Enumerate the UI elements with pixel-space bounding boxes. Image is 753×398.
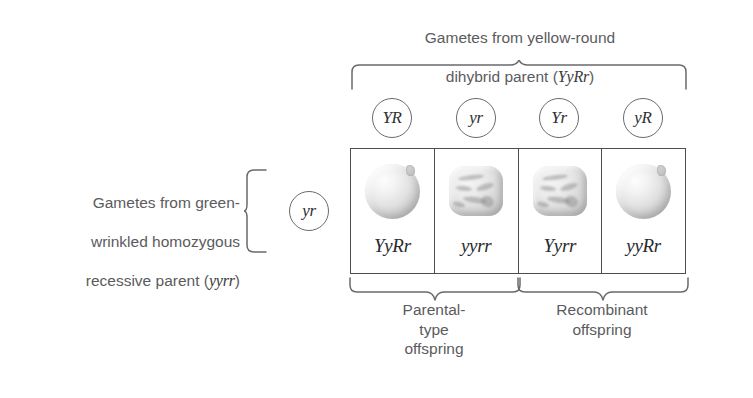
gamete-circle-yR: yR <box>623 98 663 138</box>
recombinant-offspring-caption: Recombinant offspring <box>518 300 686 339</box>
left-parent-label-line1: Gametes from green- <box>93 194 240 211</box>
offspring-cell-2: yyrr <box>435 149 519 273</box>
gamete-circle-Yr: Yr <box>539 98 579 138</box>
left-parent-genotype: yyrr <box>209 272 235 289</box>
round-pea-icon <box>365 164 420 219</box>
offspring-cell-4: yyRr <box>602 149 685 273</box>
left-parent-label-line2: wrinkled homozygous <box>91 233 240 250</box>
offspring-cell-3: Yyrr <box>519 149 603 273</box>
top-parent-label-line1: Gametes from yellow-round <box>425 29 615 46</box>
gamete-circle-yr: yr <box>456 98 496 138</box>
wrinkled-pea-icon <box>533 166 587 216</box>
gamete-circle-YR: YR <box>372 98 412 138</box>
pea-image-wrapper <box>519 149 602 233</box>
gamete-label: YR <box>382 109 401 126</box>
wrinkled-pea-icon <box>449 166 503 216</box>
offspring-genotype: Yyrr <box>544 235 577 257</box>
gamete-label: yr <box>469 109 483 126</box>
gamete-label: yR <box>634 109 651 126</box>
pea-image-wrapper <box>351 149 434 233</box>
offspring-grid: YyRr yyrr Yyrr yyR <box>350 148 686 274</box>
gamete-label: yr <box>302 202 316 219</box>
offspring-genotype: yyRr <box>626 235 661 257</box>
gamete-label: Yr <box>551 109 566 126</box>
parental-type-offspring-caption: Parental- type offspring <box>350 300 518 359</box>
top-parent-genotype: YyRr <box>558 68 589 85</box>
offspring-cell-1: YyRr <box>351 149 435 273</box>
round-pea-icon <box>616 164 671 219</box>
top-parent-label: Gametes from yellow-round dihybrid paren… <box>352 8 688 86</box>
offspring-genotype: yyrr <box>461 235 491 257</box>
pea-image-wrapper <box>602 149 685 233</box>
pea-image-wrapper <box>435 149 518 233</box>
left-parent-label-line3-end: ) <box>235 272 240 289</box>
offspring-genotype: YyRr <box>374 235 411 257</box>
top-parent-label-line2-end: ) <box>589 68 594 85</box>
genetics-testcross-figure: Gametes from yellow-round dihybrid paren… <box>0 0 753 398</box>
gamete-circle-side-yr: yr <box>289 191 329 231</box>
top-parent-label-line2: dihybrid parent ( <box>446 68 558 85</box>
left-brace <box>244 168 270 254</box>
left-parent-label-line3: recessive parent ( <box>86 272 209 289</box>
left-parent-label: Gametes from green- wrinkled homozygous … <box>8 173 240 290</box>
